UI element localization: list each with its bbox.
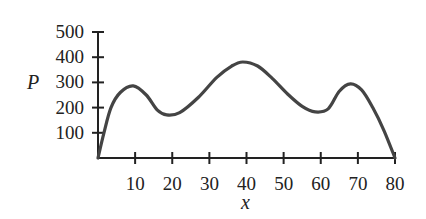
x-tick-label: 70 xyxy=(348,173,367,194)
y-axis-title: P xyxy=(26,71,39,93)
curve-layer xyxy=(98,62,395,158)
y-tick-label: 200 xyxy=(56,97,85,118)
x-tick-label: 30 xyxy=(200,173,219,194)
x-tick-label: 50 xyxy=(274,173,293,194)
line-chart: 1002003004005001020304050607080 P x xyxy=(0,0,426,219)
y-tick-label: 100 xyxy=(56,122,85,143)
chart: 1002003004005001020304050607080 P x xyxy=(0,0,426,219)
y-tick-label: 500 xyxy=(56,21,85,42)
x-tick-label: 10 xyxy=(126,173,145,194)
axes xyxy=(92,32,395,164)
x-tick-label: 20 xyxy=(163,173,182,194)
x-axis-title: x xyxy=(240,191,250,213)
tick-labels: 1002003004005001020304050607080 xyxy=(56,21,405,194)
data-curve xyxy=(98,62,395,158)
x-tick-label: 60 xyxy=(311,173,330,194)
x-tick-label: 80 xyxy=(386,173,405,194)
y-tick-label: 300 xyxy=(56,71,85,92)
y-tick-label: 400 xyxy=(56,46,85,67)
